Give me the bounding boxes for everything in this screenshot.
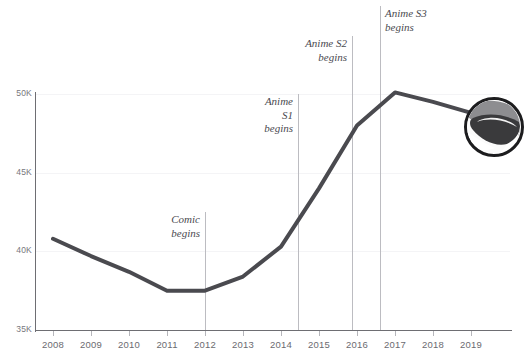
line-chart: 50K 45K 40K 35K 2008 2009 2010 2011 2012… xyxy=(0,0,529,363)
inset-circular-photo xyxy=(464,97,524,157)
series-line-layer xyxy=(0,0,529,363)
series-line xyxy=(53,92,471,290)
inset-photo-graphic xyxy=(467,100,520,153)
